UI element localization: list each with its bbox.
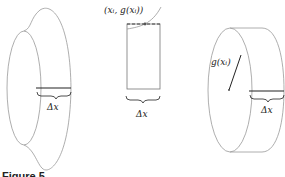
figure-canvas: Δx (xᵢ, g(xᵢ)) Δx g(xᵢ) Δx: [0, 0, 285, 177]
solid-outer-profile: [24, 8, 71, 170]
figure-caption: Figure 5: [2, 170, 45, 177]
radius-label: g(xᵢ): [211, 57, 231, 67]
slice-rectangle: [127, 24, 160, 89]
radius-line: [229, 55, 241, 90]
disk-dx-label: Δx: [260, 105, 273, 115]
slice-brace: [126, 96, 160, 103]
sample-point: [144, 23, 147, 26]
rectangle-slice: [126, 7, 161, 103]
disk-side: [230, 28, 284, 152]
disk-brace: [250, 95, 284, 102]
slice-dx-label: Δx: [135, 109, 148, 119]
solid-of-revolution: [7, 8, 71, 170]
disk-annotations: [228, 55, 284, 102]
solid-dx-label: Δx: [46, 102, 59, 112]
solid-left-face: [7, 31, 41, 145]
point-label: (xᵢ, g(xᵢ)): [104, 5, 144, 15]
disk: [208, 28, 284, 152]
